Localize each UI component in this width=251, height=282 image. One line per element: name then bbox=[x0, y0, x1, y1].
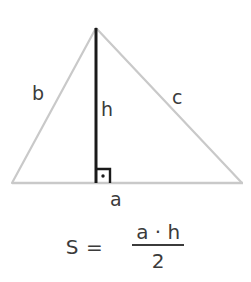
formula-denominator: 2 bbox=[152, 246, 165, 272]
formula-numerator: a · h bbox=[131, 222, 185, 244]
right-angle-dot-icon bbox=[101, 174, 104, 177]
triangle-shape bbox=[12, 28, 242, 183]
area-formula: S = a · h 2 bbox=[0, 222, 251, 272]
label-side-b: b bbox=[32, 84, 44, 103]
triangle-area-figure: b h c a S = a · h 2 bbox=[0, 0, 251, 282]
label-base-a: a bbox=[110, 190, 122, 209]
formula-left-side: S = bbox=[66, 235, 103, 259]
formula-fraction: a · h 2 bbox=[131, 222, 185, 272]
label-side-c: c bbox=[172, 88, 182, 107]
label-height-h: h bbox=[101, 100, 113, 119]
